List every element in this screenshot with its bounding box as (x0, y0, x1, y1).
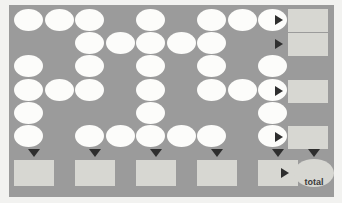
grid-cell[interactable] (167, 125, 196, 147)
row-sum-box[interactable] (288, 126, 328, 149)
arrow-down-icon (28, 149, 40, 157)
column-sum-box[interactable] (197, 160, 237, 186)
grid-cell[interactable] (197, 125, 226, 147)
grid-cell[interactable] (197, 9, 226, 31)
grid-cell[interactable] (136, 102, 165, 124)
column-sum-box[interactable] (14, 160, 54, 186)
arrow-down-icon (150, 149, 162, 157)
total-arrow-right-icon (281, 168, 289, 178)
grid-cell[interactable] (14, 9, 43, 31)
arrow-right-icon (275, 132, 283, 142)
grid-cell[interactable] (167, 32, 196, 54)
grid-cell[interactable] (258, 102, 287, 124)
grid-cell[interactable] (228, 9, 257, 31)
row-sum-box[interactable] (288, 80, 328, 103)
arrow-right-icon (275, 86, 283, 96)
grid-cell[interactable] (45, 79, 74, 101)
worksheet-diagram: total (0, 0, 342, 203)
column-sum-box[interactable] (258, 160, 298, 186)
grid-cell[interactable] (228, 79, 257, 101)
column-sum-box[interactable] (75, 160, 115, 186)
grid-cell[interactable] (45, 9, 74, 31)
grid-cell[interactable] (197, 79, 226, 101)
arrow-down-icon (89, 149, 101, 157)
grid-cell[interactable] (14, 79, 43, 101)
row-sum-box[interactable] (288, 9, 328, 32)
grid-cell[interactable] (136, 79, 165, 101)
grid-cell[interactable] (75, 125, 104, 147)
total-label: total (294, 177, 334, 187)
grid-cell[interactable] (75, 79, 104, 101)
grid-cell[interactable] (14, 102, 43, 124)
grid-cell[interactable] (136, 125, 165, 147)
grid-cell[interactable] (14, 125, 43, 147)
grid-cell[interactable] (106, 32, 135, 54)
grid-cell[interactable] (106, 125, 135, 147)
arrow-right-icon (275, 15, 283, 25)
grid-cell[interactable] (75, 9, 104, 31)
arrow-down-icon (272, 149, 284, 157)
arrow-down-icon (211, 149, 223, 157)
column-sum-box[interactable] (136, 160, 176, 186)
grid-cell[interactable] (136, 9, 165, 31)
arrow-right-icon (275, 39, 283, 49)
row-sum-box[interactable] (288, 33, 328, 56)
total-arrow-down-icon (308, 149, 320, 157)
